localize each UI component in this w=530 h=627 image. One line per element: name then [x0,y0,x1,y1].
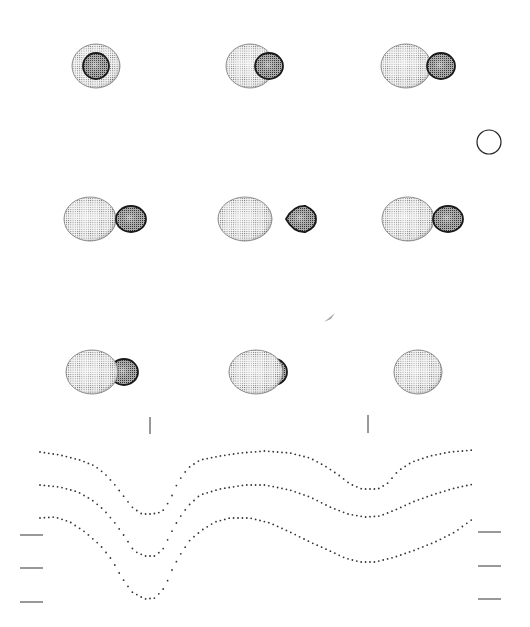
light-curve-3 [39,516,472,600]
smudge-mark [324,313,335,322]
phase-panel-1 [72,44,120,88]
phase-panel-3 [381,44,455,88]
phase-panel-4 [64,197,146,241]
orbital-phase-panels [64,44,463,394]
phase-panel-2 [226,44,283,88]
phase-panel-7 [66,350,138,394]
phase-panel-5 [218,197,316,241]
light-curve-1 [39,449,472,515]
phase-panel-8 [229,350,287,394]
light-curves [39,449,472,599]
phase-panel-6 [382,197,463,241]
scale-circle-icon [477,130,501,154]
binary-star-figure [0,0,530,627]
phase-panel-9 [394,350,442,394]
